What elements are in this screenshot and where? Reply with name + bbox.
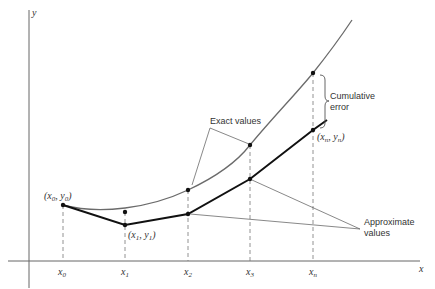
dashed-guides bbox=[63, 73, 313, 261]
tick-x2: x2 bbox=[183, 266, 192, 279]
exact-values-label: Exact values bbox=[210, 116, 262, 126]
point-label-x1-y1: (x1, y1) bbox=[128, 229, 156, 242]
cumulative-error-label-2: error bbox=[330, 102, 349, 112]
x-axis-label: x bbox=[418, 263, 424, 274]
approximate-values-label-2: values bbox=[364, 228, 391, 238]
exact-solution-curve bbox=[63, 20, 352, 210]
point-label-xn-yn: (xn, yn) bbox=[317, 131, 345, 144]
data-points bbox=[61, 71, 315, 227]
tick-x3: x3 bbox=[245, 266, 254, 279]
cumulative-error-label: Cumulative bbox=[330, 91, 375, 101]
approximate-values-leaders bbox=[190, 180, 360, 229]
tick-xn: xn bbox=[308, 266, 317, 279]
tick-x0: x0 bbox=[57, 266, 66, 279]
point-label-x0-y0: (x0, y0) bbox=[44, 190, 72, 203]
approximate-values-label: Approximate bbox=[364, 217, 415, 227]
error-brace bbox=[320, 75, 329, 128]
y-axis-label: y bbox=[31, 7, 37, 18]
tick-x1: x1 bbox=[120, 266, 129, 279]
euler-method-diagram: y x Exact values Approximate values Cum bbox=[0, 0, 435, 289]
